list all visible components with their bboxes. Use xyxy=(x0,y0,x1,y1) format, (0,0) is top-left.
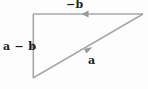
vector-label-a: a xyxy=(88,55,95,66)
vector-label-minus-b: −b xyxy=(66,0,84,10)
diagonal-edge-line xyxy=(33,14,143,78)
vector-diagram: −b a − b a xyxy=(0,0,148,89)
top-edge-arrowhead-icon xyxy=(82,11,89,18)
vector-label-a-minus-b: a − b xyxy=(3,41,36,52)
